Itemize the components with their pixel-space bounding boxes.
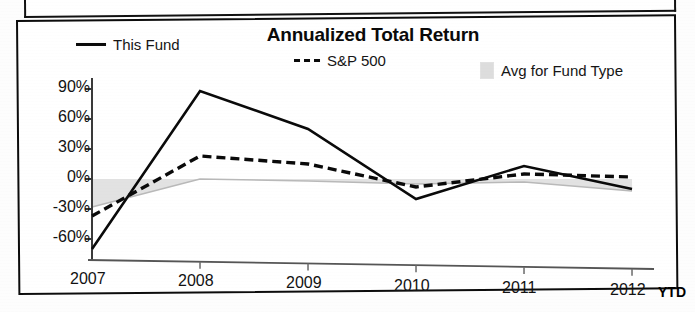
x-axis-tick-label: 2008: [178, 272, 214, 290]
chart-frame: Annualized Total Return This Fund S&P 50…: [16, 14, 678, 295]
y-axis-tick-label: -60%: [53, 228, 90, 246]
x-axis-tick-label: 2011: [502, 279, 536, 297]
ytd-label: YTD: [658, 284, 686, 300]
chart-svg: [18, 22, 678, 297]
x-axis-tick-label: 2010: [394, 277, 430, 295]
scanned-page: Annualized Total Return This Fund S&P 50…: [0, 0, 695, 312]
y-axis-tick-label: 0%: [67, 168, 90, 186]
plot-area: [18, 22, 678, 297]
y-axis-tick-label: 90%: [58, 78, 90, 96]
x-axis-tick-label: 2012: [610, 281, 646, 299]
y-axis-tick-label: 60%: [58, 108, 90, 126]
x-axis-tick-label: 2009: [286, 274, 322, 292]
x-axis-tick-label: 2007: [70, 270, 106, 288]
y-axis-labels: 90%60%30%0%-30%-60%: [18, 22, 90, 297]
y-axis-tick-label: -30%: [53, 198, 90, 216]
y-axis-tick-label: 30%: [58, 138, 90, 156]
